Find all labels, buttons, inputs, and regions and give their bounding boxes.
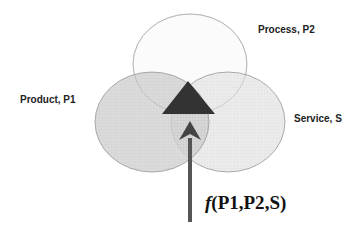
formula-arg2: P2: [244, 192, 265, 213]
process-label: Process, P2: [258, 24, 315, 35]
formula-arg1: P1: [218, 192, 239, 213]
service-label: Service, S: [294, 113, 342, 124]
venn-diagram: Process, P2 Product, P1 Service, S f(P1,…: [0, 0, 360, 232]
formula-close: ): [280, 192, 286, 213]
product-label: Product, P1: [20, 94, 76, 105]
formula-arg3: S: [269, 192, 280, 213]
formula: f(P1,P2,S): [205, 192, 286, 214]
